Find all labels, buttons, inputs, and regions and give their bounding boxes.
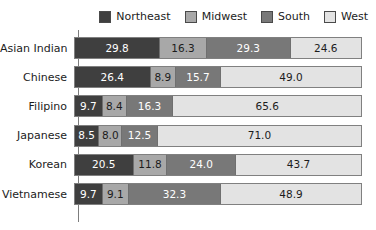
bar-segment-value: 8.0 <box>102 130 119 141</box>
bar-segment-south[interactable]: 32.3 <box>129 184 221 204</box>
bar-segment-northeast[interactable]: 8.5 <box>75 126 99 146</box>
bar-segment-value: 11.8 <box>138 159 161 170</box>
bar-segment-south[interactable]: 12.5 <box>122 126 158 146</box>
category-label: Filipino <box>0 100 74 113</box>
legend-swatch-icon <box>185 11 197 23</box>
bar-segment-value: 29.3 <box>237 43 260 54</box>
bar-segment-value: 8.5 <box>78 130 95 141</box>
bar-segment-value: 71.0 <box>248 130 271 141</box>
legend-swatch-icon <box>324 11 336 23</box>
stacked-bar: 9.78.416.365.6 <box>74 95 362 117</box>
bar-row: Asian Indian29.816.329.324.6 <box>0 37 376 59</box>
bar-segment-west[interactable]: 43.7 <box>236 155 361 175</box>
legend-label: Midwest <box>202 11 247 23</box>
bar-segment-midwest[interactable]: 8.0 <box>99 126 122 146</box>
bar-row: Vietnamese9.79.132.348.9 <box>0 183 376 205</box>
bar-row: Chinese26.48.915.749.0 <box>0 66 376 88</box>
legend-entry-northeast[interactable]: Northeast <box>99 11 170 23</box>
bar-segment-midwest[interactable]: 9.1 <box>103 184 129 204</box>
bar-row: Filipino9.78.416.365.6 <box>0 95 376 117</box>
bar-segment-south[interactable]: 16.3 <box>127 96 174 116</box>
bar-row: Japanese8.58.012.571.0 <box>0 125 376 147</box>
bar-segment-value: 8.9 <box>154 72 171 83</box>
category-label: Chinese <box>0 71 74 84</box>
legend-entry-midwest[interactable]: Midwest <box>185 11 247 23</box>
bar-segment-value: 24.0 <box>189 159 212 170</box>
legend-swatch-icon <box>99 11 111 23</box>
category-label: Japanese <box>0 129 74 142</box>
bar-segment-northeast[interactable]: 26.4 <box>75 67 151 87</box>
bar-segment-value: 32.3 <box>163 189 186 200</box>
bar-segment-value: 48.9 <box>279 189 302 200</box>
stacked-bar: 8.58.012.571.0 <box>74 125 362 147</box>
legend-entry-west[interactable]: West <box>324 11 368 23</box>
bar-segment-west[interactable]: 65.6 <box>173 96 361 116</box>
legend-label: West <box>341 11 368 23</box>
category-label: Korean <box>0 158 74 171</box>
legend-label: Northeast <box>116 11 170 23</box>
stacked-bar: 20.511.824.043.7 <box>74 154 362 176</box>
stacked-bar-chart: NortheastMidwestSouthWest Asian Indian29… <box>0 0 376 230</box>
bar-segment-south[interactable]: 24.0 <box>167 155 236 175</box>
bar-segment-northeast[interactable]: 9.7 <box>75 184 103 204</box>
bar-segment-value: 12.5 <box>128 130 151 141</box>
bar-segment-value: 9.7 <box>80 101 97 112</box>
bar-row: Korean20.511.824.043.7 <box>0 154 376 176</box>
bar-segment-midwest[interactable]: 16.3 <box>160 38 207 58</box>
plot-area: Asian Indian29.816.329.324.6Chinese26.48… <box>0 30 376 226</box>
bar-segment-value: 65.6 <box>255 101 278 112</box>
bar-segment-value: 26.4 <box>101 72 124 83</box>
legend-swatch-icon <box>261 11 273 23</box>
bar-segment-value: 16.3 <box>171 43 194 54</box>
bar-segment-value: 15.7 <box>186 72 209 83</box>
legend-entry-south[interactable]: South <box>261 11 310 23</box>
bar-segment-midwest[interactable]: 8.9 <box>151 67 176 87</box>
bar-segment-value: 20.5 <box>92 159 115 170</box>
bar-segment-midwest[interactable]: 8.4 <box>103 96 127 116</box>
bar-segment-value: 43.7 <box>287 159 310 170</box>
bar-segment-west[interactable]: 49.0 <box>221 67 361 87</box>
bar-segment-value: 9.7 <box>80 189 97 200</box>
bar-segment-northeast[interactable]: 20.5 <box>75 155 134 175</box>
bar-segment-value: 9.1 <box>107 189 124 200</box>
bar-segment-west[interactable]: 48.9 <box>221 184 361 204</box>
bar-segment-value: 49.0 <box>279 72 302 83</box>
bar-segment-value: 24.6 <box>314 43 337 54</box>
bar-segment-value: 16.3 <box>138 101 161 112</box>
legend-label: South <box>278 11 310 23</box>
bar-segment-west[interactable]: 71.0 <box>158 126 361 146</box>
bar-segment-northeast[interactable]: 9.7 <box>75 96 103 116</box>
category-label: Vietnamese <box>0 188 74 201</box>
chart-legend: NortheastMidwestSouthWest <box>0 6 376 28</box>
stacked-bar: 26.48.915.749.0 <box>74 66 362 88</box>
bar-segment-south[interactable]: 15.7 <box>176 67 221 87</box>
bar-segment-south[interactable]: 29.3 <box>207 38 291 58</box>
stacked-bar: 9.79.132.348.9 <box>74 183 362 205</box>
bar-segment-value: 29.8 <box>105 43 128 54</box>
bar-segment-northeast[interactable]: 29.8 <box>75 38 160 58</box>
stacked-bar: 29.816.329.324.6 <box>74 37 362 59</box>
bar-segment-west[interactable]: 24.6 <box>291 38 361 58</box>
bar-segment-midwest[interactable]: 11.8 <box>134 155 168 175</box>
category-label: Asian Indian <box>0 42 74 55</box>
bar-segment-value: 8.4 <box>106 101 123 112</box>
